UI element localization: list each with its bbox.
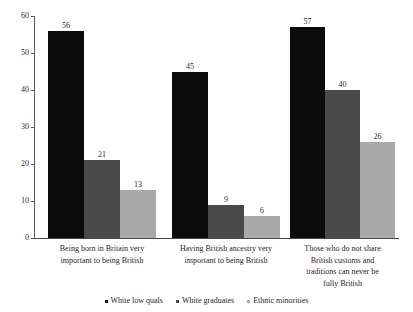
category-label-line: fully British [278,278,407,290]
x-axis-line [34,238,399,239]
bar-value-label: 40 [325,80,360,89]
bar-group: 574026 [290,16,395,238]
bar [244,216,280,238]
bar [120,190,156,238]
legend-swatch-icon [176,300,179,303]
bar-value-label: 57 [290,17,325,26]
bar-value-label: 13 [120,180,156,189]
bar-column: 57 [290,16,325,238]
bar-group-bars: 574026 [290,16,395,238]
bar [360,142,395,238]
bar-column: 45 [172,16,208,238]
legend-item[interactable]: Ethnic minorities [247,296,308,306]
bar-column: 9 [208,16,244,238]
legend-label: Ethnic minorities [253,296,308,306]
bar-column: 6 [244,16,280,238]
bar-groups: 5621134596574026 [35,16,399,238]
legend-swatch-icon [247,300,250,303]
bar-group-bars: 4596 [172,16,280,238]
bar-column: 56 [48,16,84,238]
y-tick-label: 60 [0,11,34,21]
y-tick-label: 20 [0,159,34,169]
bar [208,205,244,238]
bar-group: 4596 [172,16,280,238]
bar [172,72,208,239]
bar [48,31,84,238]
legend-swatch-icon [105,300,108,303]
bar-column: 26 [360,16,395,238]
bar-chart: 0102030405060 5621134596574026 Being bor… [0,0,413,312]
y-tick-label: 0 [0,233,34,243]
bar-value-label: 9 [208,195,244,204]
legend-item[interactable]: White graduates [176,296,234,306]
legend-label: White low quals [111,296,163,306]
bar [290,27,325,238]
y-tick-label: 10 [0,196,34,206]
category-label-line: traditions can never be [278,266,407,278]
bar-value-label: 6 [244,206,280,215]
bar [84,160,120,238]
bar [325,90,360,238]
y-tick-label: 50 [0,48,34,58]
bar-value-label: 56 [48,21,84,30]
category-label-line: important to being British [36,255,168,267]
bar-group: 562113 [48,16,156,238]
bar-value-label: 45 [172,62,208,71]
y-tick-mark [31,238,35,239]
category-label-line: British customs and [278,255,407,267]
bar-column: 21 [84,16,120,238]
legend-label: White graduates [182,296,234,306]
bar-column: 13 [120,16,156,238]
chart-legend: White low qualsWhite graduatesEthnic min… [0,296,413,306]
category-label: Having British ancestry veryimportant to… [160,243,292,266]
y-tick-label: 30 [0,122,34,132]
bar-group-bars: 562113 [48,16,156,238]
bar-value-label: 21 [84,150,120,159]
bar-value-label: 26 [360,132,395,141]
category-label-line: Those who do not share [278,243,407,255]
y-tick-label: 40 [0,85,34,95]
bar-column: 40 [325,16,360,238]
category-label-line: Having British ancestry very [160,243,292,255]
legend-item[interactable]: White low quals [105,296,163,306]
category-label: Being born in Britain veryimportant to b… [36,243,168,266]
category-label-line: important to being British [160,255,292,267]
category-label: Those who do not shareBritish customs an… [278,243,407,289]
category-label-line: Being born in Britain very [36,243,168,255]
